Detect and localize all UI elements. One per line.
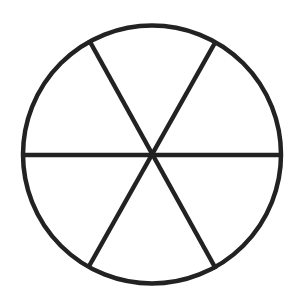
six-sector-circle-diagram [0,0,306,307]
dividing-lines [23,40,281,269]
